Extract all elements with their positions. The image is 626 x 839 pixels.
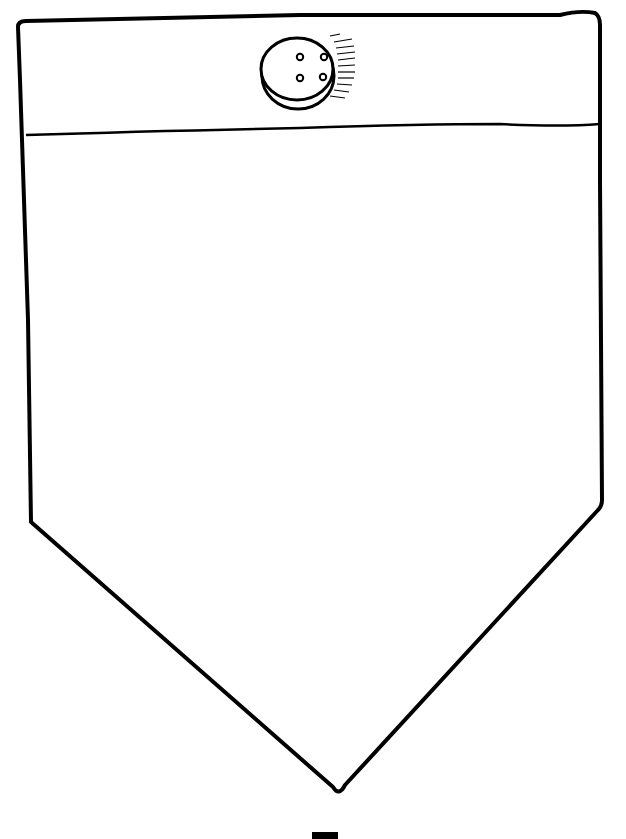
pocket-drawing bbox=[0, 0, 626, 839]
button-icon bbox=[261, 38, 333, 100]
bottom-mark bbox=[312, 832, 338, 839]
